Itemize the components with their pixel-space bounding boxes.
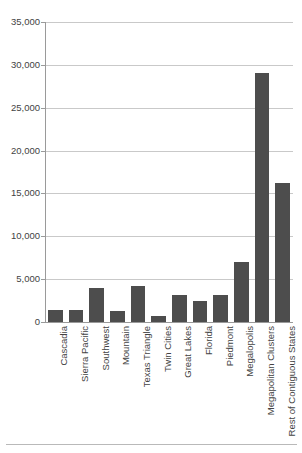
bar[interactable] <box>151 316 165 322</box>
bar[interactable] <box>172 295 186 322</box>
y-axis-tick-label: 10,000 <box>11 231 40 241</box>
x-axis-labels: CascadiaSierra PacificSouthwestMountainT… <box>45 326 293 436</box>
bars-layer <box>45 22 293 323</box>
y-axis-labels: 05,00010,00015,00020,00025,00030,00035,0… <box>0 22 40 323</box>
y-axis-tick-label: 30,000 <box>11 60 40 70</box>
x-axis-tick-label: Southwest <box>101 326 111 370</box>
x-axis-tick-label: Megalopolis <box>245 326 255 377</box>
bar[interactable] <box>69 310 83 322</box>
y-axis-tick-label: 0 <box>35 317 40 327</box>
y-axis-tick-label: 20,000 <box>11 146 40 156</box>
bar[interactable] <box>255 73 269 322</box>
x-axis-tick-label: Twin Cities <box>163 326 173 372</box>
y-axis-tick-label: 25,000 <box>11 103 40 113</box>
bar[interactable] <box>110 311 124 322</box>
x-axis-tick-label: Florida <box>204 326 214 355</box>
x-axis-tick-label: Piedmont <box>225 326 235 366</box>
bar[interactable] <box>89 288 103 322</box>
x-axis-tick-label: Megapolitan Clusters <box>266 326 276 415</box>
x-axis-tick-label: Texas Triangle <box>142 326 152 387</box>
bar[interactable] <box>48 310 62 322</box>
x-axis-tick-label: Mountain <box>121 326 131 365</box>
bar[interactable] <box>275 183 289 322</box>
bar[interactable] <box>193 301 207 322</box>
footer-divider <box>6 444 297 445</box>
x-axis-tick-label: Rest of Contiguous States <box>287 326 297 436</box>
x-axis-tick-label: Sierra Pacific <box>80 326 90 382</box>
y-axis-tick-label: 35,000 <box>11 17 40 27</box>
bar-chart: 05,00010,00015,00020,00025,00030,00035,0… <box>0 0 302 453</box>
bar[interactable] <box>131 286 145 322</box>
x-axis-tick-label: Cascadia <box>59 326 69 366</box>
bar[interactable] <box>234 262 248 322</box>
y-axis-tick-label: 5,000 <box>16 274 40 284</box>
x-axis-tick-label: Great Lakes <box>183 326 193 378</box>
bar[interactable] <box>213 295 227 322</box>
y-axis-tick-label: 15,000 <box>11 188 40 198</box>
